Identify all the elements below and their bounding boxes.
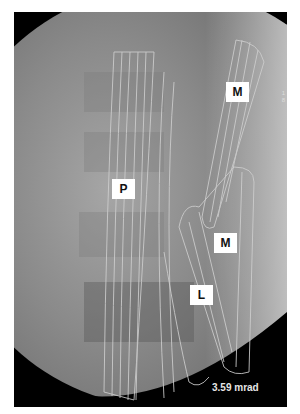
label-muscle-upper: M — [226, 82, 249, 102]
xray-field — [14, 12, 287, 407]
corner-text-line: 1 — [282, 90, 285, 97]
corner-text-line: 8 — [282, 97, 285, 104]
dose-readout: 3.59 mrad — [212, 382, 259, 393]
label-l: L — [190, 285, 213, 305]
label-muscle-lower: M — [214, 233, 237, 253]
corner-text: 1 8 — [282, 90, 285, 104]
label-psoas: P — [112, 179, 135, 199]
fluoroscopy-image: 1 8 P M M L 3.59 mrad — [14, 12, 287, 407]
